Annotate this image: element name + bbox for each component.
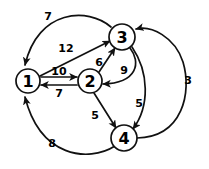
- edge-weight-3-to-4: 5: [135, 97, 143, 110]
- graph-node-2[interactable]: 2: [78, 69, 102, 93]
- graph-node-1[interactable]: 1: [16, 69, 40, 93]
- edge-weight-2-to-1: 7: [55, 87, 63, 100]
- node-label-3: 3: [116, 28, 127, 47]
- edge-weight-1-to-2: 10: [51, 65, 67, 78]
- edge-weight-2-to-3: 6: [95, 56, 103, 69]
- node-label-2: 2: [84, 72, 95, 91]
- node-label-1: 1: [22, 72, 33, 91]
- edge-weight-2-to-4: 5: [91, 109, 99, 122]
- graph-node-4[interactable]: 4: [111, 125, 137, 151]
- edge-weight-4-to-1: 8: [48, 137, 56, 150]
- edge-weight-3-to-2: 9: [120, 64, 128, 77]
- graph-edge-4-to-3: [136, 28, 186, 138]
- node-label-4: 4: [118, 129, 129, 148]
- edge-weight-3-to-1: 7: [44, 10, 52, 23]
- edge-weight-1-to-3: 12: [58, 42, 73, 55]
- graph-node-3[interactable]: 3: [109, 24, 135, 50]
- graph-canvas: 712107695538 1234: [0, 0, 209, 169]
- graph-diagram: 712107695538 1234: [0, 0, 209, 169]
- edge-weight-4-to-3: 3: [184, 74, 192, 87]
- graph-edge-3-to-4: [132, 47, 145, 129]
- edges-layer: [25, 15, 186, 154]
